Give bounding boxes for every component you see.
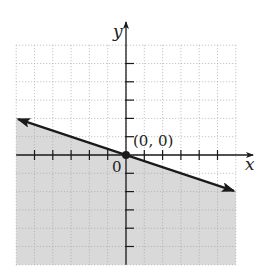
y-axis-label: y bbox=[112, 21, 123, 41]
inequality-graph: yx0(0, 0) bbox=[0, 0, 270, 277]
point-label: (0, 0) bbox=[133, 132, 173, 150]
x-axis-label: x bbox=[245, 154, 255, 174]
origin-point bbox=[122, 151, 130, 159]
origin-label: 0 bbox=[112, 158, 122, 176]
